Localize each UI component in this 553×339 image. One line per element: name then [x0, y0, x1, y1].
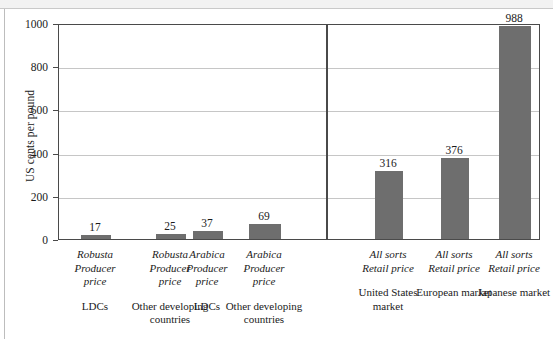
- bar: [156, 234, 186, 239]
- bar-chart-figure: US cents per pound 02004006008001000 172…: [0, 0, 553, 339]
- category-label-line: All sorts: [474, 248, 553, 262]
- plot-area: [58, 24, 540, 240]
- bar-value-label: 988: [505, 12, 522, 24]
- category-label-line: Arabica: [221, 248, 307, 262]
- y-tick-label-600: 600: [2, 104, 48, 116]
- bar-value-label: 37: [201, 217, 213, 229]
- gridline-800: [59, 68, 539, 69]
- category-label-line: Robusta: [52, 248, 138, 262]
- bar: [375, 171, 403, 239]
- y-tick-label-400: 400: [2, 148, 48, 160]
- category-label-line: price: [52, 275, 138, 289]
- bar: [193, 231, 223, 239]
- category-label-line: Producer: [221, 262, 307, 276]
- y-tick-label-200: 200: [2, 191, 48, 203]
- category-group-label: Japanese market: [474, 286, 553, 300]
- gridline-400: [59, 155, 539, 156]
- category-label: RobustaProducerpriceLDCs: [52, 248, 138, 313]
- y-tick-mark-0: [53, 240, 58, 241]
- bar: [249, 224, 281, 239]
- page-background: US cents per pound 02004006008001000 172…: [0, 0, 553, 339]
- panel-divider: [326, 24, 328, 240]
- category-group-label: LDCs: [52, 300, 138, 314]
- bar-value-label: 316: [379, 157, 396, 169]
- y-tick-label-1000: 1000: [2, 18, 48, 30]
- bar-value-label: 376: [445, 144, 462, 156]
- category-group-label: Other developing countries: [221, 300, 307, 327]
- category-label: All sortsRetail priceJapanese market: [474, 248, 553, 300]
- y-tick-label-0: 0: [2, 234, 48, 246]
- bar: [441, 158, 469, 239]
- category-label: ArabicaProducerpriceOther developing cou…: [221, 248, 307, 327]
- category-label-line: Producer: [52, 262, 138, 276]
- y-tick-label-800: 800: [2, 61, 48, 73]
- bar: [499, 26, 531, 239]
- category-label-line: price: [221, 275, 307, 289]
- gridline-600: [59, 111, 539, 112]
- bar-value-label: 25: [164, 220, 176, 232]
- bar-value-label: 69: [258, 210, 270, 222]
- category-label-line: Retail price: [474, 262, 553, 276]
- bar-value-label: 17: [89, 221, 101, 233]
- bar: [81, 235, 111, 239]
